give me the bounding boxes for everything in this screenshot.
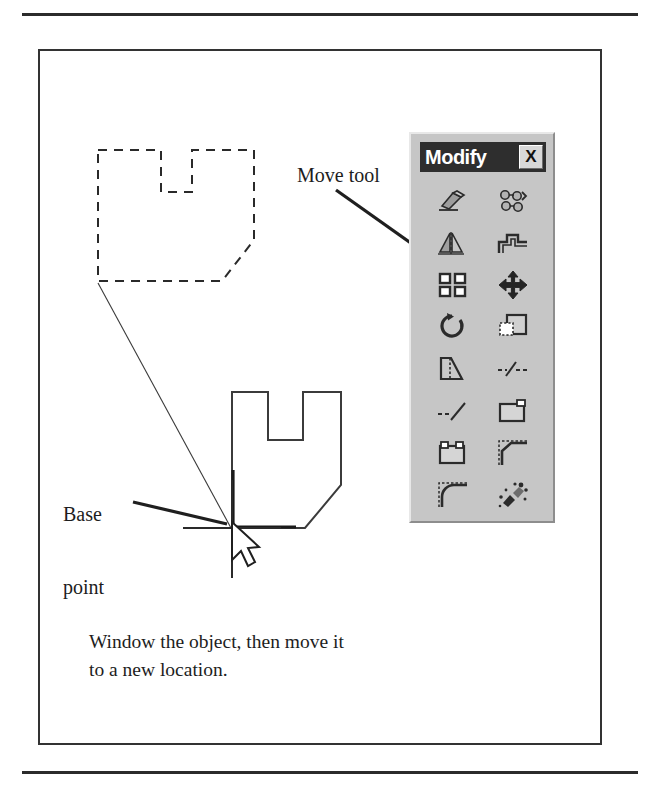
toolbar-button-extend[interactable] xyxy=(423,390,483,432)
stretch-icon xyxy=(437,355,469,383)
annotation-base-point-line1: Base xyxy=(63,502,104,526)
figure-caption-line1: Window the object, then move it xyxy=(89,628,419,656)
chamfer-icon xyxy=(497,439,529,467)
toolbar-button-explode[interactable] xyxy=(483,474,543,516)
array-icon xyxy=(437,271,469,299)
toolbar-titlebar[interactable]: Modify X xyxy=(420,142,546,172)
annotation-move-tool: Move tool xyxy=(297,163,380,187)
horizontal-rule-bottom xyxy=(22,771,638,774)
annotation-base-point: Base point xyxy=(63,453,104,648)
scale-icon xyxy=(497,313,529,341)
annotation-base-point-line2: point xyxy=(63,575,104,599)
break-at-point-icon xyxy=(497,398,529,424)
toolbar-button-rotate[interactable] xyxy=(423,306,483,348)
figure-caption-line2: to a new location. xyxy=(89,656,419,684)
close-icon[interactable]: X xyxy=(519,145,543,169)
break-icon xyxy=(437,440,469,466)
toolbar-button-stretch[interactable] xyxy=(423,348,483,390)
toolbar-button-break-at-point[interactable] xyxy=(483,390,543,432)
toolbar-button-array[interactable] xyxy=(423,264,483,306)
toolbar-button-offset[interactable] xyxy=(483,222,543,264)
page-root: Move tool Base point Window the object, … xyxy=(0,0,660,794)
toolbar-button-trim[interactable] xyxy=(483,348,543,390)
move-icon xyxy=(497,270,529,300)
erase-icon xyxy=(436,187,470,215)
toolbar-button-fillet[interactable] xyxy=(423,474,483,516)
fillet-icon xyxy=(437,481,469,509)
offset-icon xyxy=(496,229,530,257)
toolbar-button-grid xyxy=(423,180,543,516)
explode-icon xyxy=(497,481,529,509)
toolbar-button-erase[interactable] xyxy=(423,180,483,222)
copy-object-icon xyxy=(496,187,530,215)
toolbar-button-copy-object[interactable] xyxy=(483,180,543,222)
horizontal-rule-top xyxy=(22,13,638,16)
toolbar-title: Modify xyxy=(425,146,517,169)
toolbar-button-mirror[interactable] xyxy=(423,222,483,264)
toolbar-button-chamfer[interactable] xyxy=(483,432,543,474)
toolbar-button-scale[interactable] xyxy=(483,306,543,348)
extend-icon xyxy=(436,399,470,423)
trim-icon xyxy=(496,357,530,381)
mirror-icon xyxy=(436,229,470,257)
rotate-icon xyxy=(438,312,468,342)
toolbar-button-break[interactable] xyxy=(423,432,483,474)
toolbar-button-move[interactable] xyxy=(483,264,543,306)
modify-toolbar[interactable]: Modify X xyxy=(409,132,555,523)
figure-caption: Window the object, then move it to a new… xyxy=(89,628,419,685)
